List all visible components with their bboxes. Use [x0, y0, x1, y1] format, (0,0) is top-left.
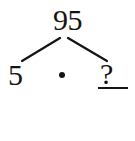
- factor-tree-figure: 95 5 ?: [0, 0, 135, 141]
- answer-blank-line[interactable]: [98, 87, 128, 89]
- multiplication-dot-icon: [59, 72, 65, 78]
- factor-tree-known-factor: 5: [8, 60, 23, 90]
- left-branch-line: [22, 38, 60, 61]
- factor-tree-root-value: 95: [0, 5, 135, 35]
- factor-tree-unknown-factor: ?: [100, 59, 113, 89]
